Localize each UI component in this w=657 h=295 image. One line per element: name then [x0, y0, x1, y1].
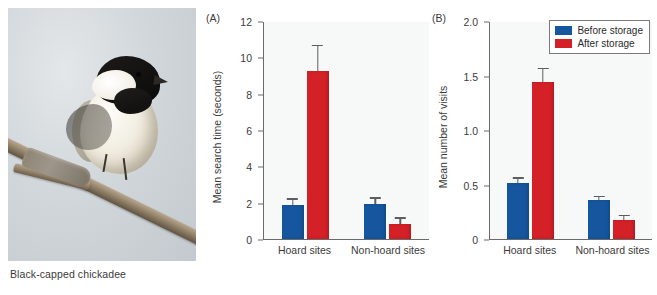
panel-b: (B) Mean number of visits 2.01.51.00.50 …	[432, 8, 654, 291]
panel-b-bar-group	[576, 22, 647, 239]
panel-a-tick-label: 0	[246, 234, 252, 246]
panel-a-error-bar	[317, 45, 318, 71]
panel-a-bar-after-storage[interactable]	[307, 71, 329, 239]
chickadee-photo	[8, 8, 196, 261]
panel-a-bar-holder	[389, 22, 411, 239]
bird-wing	[66, 104, 112, 150]
panel-a-tick-label: 12	[240, 16, 252, 28]
bird-beak	[153, 75, 168, 87]
legend-label: Before storage	[577, 25, 643, 36]
panel-a-bars	[264, 22, 429, 239]
panel-b-bar-after-storage[interactable]	[532, 82, 554, 239]
panel-b-bar-after-storage[interactable]	[613, 220, 635, 239]
panel-a-x-label: Hoard sites	[268, 244, 341, 256]
panel-b-x-label: Non-hoard sites	[575, 244, 647, 256]
legend-label: After storage	[577, 38, 634, 49]
panel-a-tick-label: 4	[246, 161, 252, 173]
panel-a-ylabel: Mean search time (seconds)	[210, 26, 224, 248]
panel-a-error-bar	[375, 197, 376, 203]
panel-b-tick-label: 1.5	[463, 71, 478, 83]
legend-swatch-before-storage	[555, 26, 572, 35]
panel-b-error-bar	[517, 177, 518, 183]
photo-block	[8, 8, 196, 261]
panel-b-error-bar	[542, 68, 543, 82]
figure-root: Black-capped chickadee (A) Mean search t…	[0, 0, 657, 295]
panel-a-bar-holder	[282, 22, 304, 239]
panel-b-bar-holder	[613, 22, 635, 239]
panel-b-x-label: Hoard sites	[494, 244, 566, 256]
panel-b-bar-group	[495, 22, 566, 239]
panel-a-tick-label: 2	[246, 198, 252, 210]
panel-b-bar-holder	[507, 22, 529, 239]
panel-b-bar-before-storage[interactable]	[507, 183, 529, 239]
panel-a-bar-before-storage[interactable]	[282, 205, 304, 239]
panel-b-ylabel: Mean number of visits	[436, 26, 450, 248]
chart-legend: Before storageAfter storage	[549, 20, 650, 54]
panel-a-bar-before-storage[interactable]	[364, 204, 386, 239]
panel-b-x-labels: Hoard sitesNon-hoard sites	[489, 244, 652, 256]
panel-a-plot-area	[263, 22, 429, 240]
panel-b-bar-holder	[532, 22, 554, 239]
panel-b-bars	[490, 22, 652, 239]
legend-item[interactable]: After storage	[555, 38, 643, 49]
legend-item[interactable]: Before storage	[555, 25, 643, 36]
panel-a-ylabel-text: Mean search time (seconds)	[211, 71, 223, 203]
panel-b-bar-holder	[588, 22, 610, 239]
photo-caption: Black-capped chickadee	[10, 268, 200, 280]
panel-a-x-label: Non-hoard sites	[351, 244, 424, 256]
panel-a-y-ticks: 121086420	[224, 22, 258, 240]
panel-a-tick-label: 8	[246, 89, 252, 101]
panel-b-tick-label: 0.5	[463, 180, 478, 192]
panel-a-bar-holder	[364, 22, 386, 239]
panel-b-plot-wrap: 2.01.51.00.50 Hoard sitesNon-hoard sites	[450, 22, 652, 254]
panel-a-error-bar	[400, 217, 401, 223]
panel-b-error-bar	[623, 215, 624, 221]
panel-b-plot-area	[489, 22, 652, 240]
bird-eye	[136, 72, 141, 77]
panel-b-ylabel-text: Mean number of visits	[437, 86, 449, 189]
panel-a-bar-group	[351, 22, 424, 239]
panel-b-bar-before-storage[interactable]	[588, 200, 610, 239]
panel-b-error-bar	[598, 196, 599, 200]
panel-a-bar-group	[269, 22, 342, 239]
panel-b-tick-label: 0	[472, 234, 478, 246]
panel-a: (A) Mean search time (seconds) 121086420…	[206, 8, 431, 291]
panel-b-tag: (B)	[432, 12, 446, 24]
panel-a-tick-label: 10	[240, 52, 252, 64]
legend-swatch-after-storage	[555, 39, 572, 48]
panel-a-tick-label: 6	[246, 125, 252, 137]
panel-b-y-ticks: 2.01.51.00.50	[450, 22, 484, 240]
panel-a-plot-wrap: 121086420 Hoard sitesNon-hoard sites	[224, 22, 429, 254]
panel-a-bar-after-storage[interactable]	[389, 224, 411, 239]
panel-b-tick-label: 2.0	[463, 16, 478, 28]
panel-a-bar-holder	[307, 22, 329, 239]
panel-a-x-labels: Hoard sitesNon-hoard sites	[263, 244, 429, 256]
panel-a-tag: (A)	[206, 12, 220, 24]
panel-a-error-bar	[292, 198, 293, 205]
panel-b-tick-label: 1.0	[463, 125, 478, 137]
